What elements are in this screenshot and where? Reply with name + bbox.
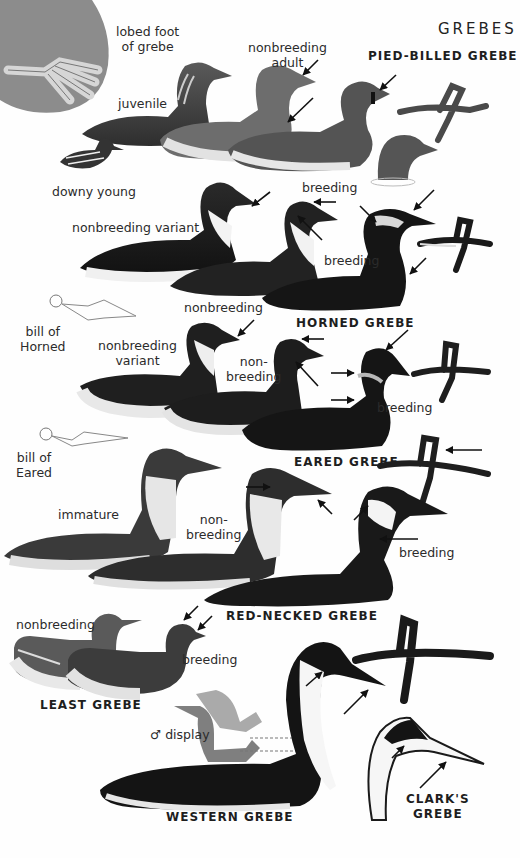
species-name-clarks: CLARK'S GREBE <box>406 792 470 822</box>
bill-inset-eared-label: bill of Eared <box>16 450 52 480</box>
label-line: nonbreeding <box>248 40 327 55</box>
species-name-western: WESTERN GREBE <box>166 810 294 825</box>
label-line: bill of <box>20 324 66 339</box>
label-nonbreeding: nonbreeding <box>16 617 95 632</box>
label-line: nonbreeding <box>98 338 177 353</box>
label-breeding: breeding <box>324 253 379 268</box>
label-breeding: breeding <box>399 545 454 560</box>
grebe-illustrations <box>0 0 520 858</box>
species-name-least: LEAST GREBE <box>40 698 142 713</box>
page-title: GREBES <box>438 20 517 38</box>
label-line: bill of <box>16 450 52 465</box>
species-name-horned: HORNED GREBE <box>296 316 415 331</box>
label-breeding: breeding <box>182 652 237 667</box>
label-line: non- <box>186 512 241 527</box>
label-line: breeding <box>226 369 281 384</box>
label-immature: immature <box>58 507 119 522</box>
label-line: adult <box>248 55 327 70</box>
label-nonbreeding-variant: nonbreeding variant <box>98 338 177 368</box>
label-line: breeding <box>186 527 241 542</box>
label-juvenile: juvenile <box>118 96 167 111</box>
label-nonbreeding: non- breeding <box>226 354 281 384</box>
label-nonbreeding-adult: nonbreeding adult <box>248 40 327 70</box>
label-line: non- <box>226 354 281 369</box>
lobed-foot-inset <box>0 0 109 113</box>
label-line: GREBE <box>406 807 470 822</box>
label-male-display: ♂ display <box>150 727 210 742</box>
label-nonbreeding: nonbreeding <box>184 300 263 315</box>
label-breeding: breeding <box>377 400 432 415</box>
label-line: CLARK'S <box>406 792 470 807</box>
label-line: Eared <box>16 465 52 480</box>
label-downy-young: downy young <box>52 184 136 199</box>
western-grebe-illustration <box>100 620 490 820</box>
bill-inset-horned-label: bill of Horned <box>20 324 66 354</box>
field-guide-page: GREBES lobed foot of grebe PIED-BILLED G… <box>0 0 520 858</box>
foot-label-line2: of grebe <box>116 39 179 54</box>
pied-billed-grebe-illustration <box>60 62 486 186</box>
species-name-pied-billed: PIED-BILLED GREBE <box>368 49 518 64</box>
label-nonbreeding: non- breeding <box>186 512 241 542</box>
foot-label-line1: lobed foot <box>116 24 179 39</box>
label-breeding: breeding <box>302 180 357 195</box>
horned-grebe-illustration <box>50 182 490 320</box>
label-nonbreeding-variant: nonbreeding variant <box>72 220 199 235</box>
species-name-eared: EARED GREBE <box>294 455 399 470</box>
label-line: Horned <box>20 339 66 354</box>
foot-label: lobed foot of grebe <box>116 24 179 54</box>
species-name-red-necked: RED-NECKED GREBE <box>226 609 378 624</box>
label-line: variant <box>98 353 177 368</box>
